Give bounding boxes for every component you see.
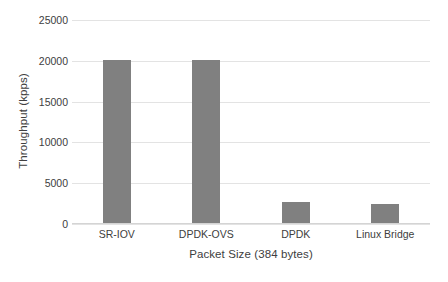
y-axis-tick-label: 15000 — [24, 96, 68, 108]
bar[interactable] — [192, 60, 220, 223]
bar[interactable] — [282, 202, 310, 223]
gridline — [72, 224, 430, 225]
x-axis-tick-label: DPDK — [281, 228, 310, 240]
x-axis-tick-labels: SR-IOVDPDK-OVSDPDKLinux Bridge — [72, 228, 430, 246]
bar-chart: Throughput (kpps) 2500020000150001000050… — [0, 0, 448, 282]
x-axis-tick-label: SR-IOV — [99, 228, 135, 240]
y-axis-tick-label: 10000 — [24, 136, 68, 148]
x-axis-tick-label: DPDK-OVS — [179, 228, 234, 240]
plot-area — [72, 20, 430, 224]
y-axis-tick-labels: 2500020000150001000050000 — [24, 14, 68, 226]
gridline — [72, 20, 430, 21]
y-axis-tick-label: 20000 — [24, 55, 68, 67]
y-axis-tick-label: 25000 — [24, 14, 68, 26]
y-axis-tick-label: 5000 — [24, 177, 68, 189]
y-axis-tick-label: 0 — [24, 218, 68, 230]
bar[interactable] — [371, 204, 399, 223]
bar[interactable] — [103, 60, 131, 223]
x-axis-tick-label: Linux Bridge — [356, 228, 414, 240]
x-axis-title: Packet Size (384 bytes) — [72, 248, 430, 260]
